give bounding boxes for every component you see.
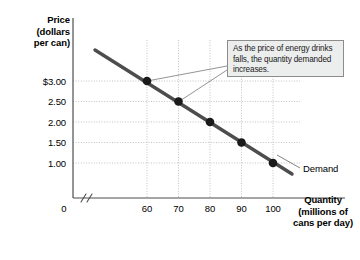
horizontal-gridlines: [73, 81, 300, 163]
x-axis-title-line-3: cans per day): [288, 217, 358, 229]
x-axis-title: Quantity (millions of cans per day): [288, 194, 358, 229]
x-axis-title-line-2: (millions of: [288, 206, 358, 218]
x-tick-label-90: 90: [230, 203, 254, 214]
y-axis-title-line-2: (dollars: [8, 26, 70, 38]
data-point-60-3-00: [143, 77, 152, 86]
origin-tick-label: 0: [56, 203, 72, 214]
y-tick-label-1-50: 1.50: [22, 137, 66, 148]
x-axis-title-line-1: Quantity: [288, 194, 358, 206]
data-point-70-2-50: [174, 97, 183, 106]
x-tick-label-70: 70: [167, 203, 191, 214]
y-axis-title: Price (dollars per can): [8, 14, 70, 49]
y-axis-title-line-1: Price: [8, 14, 70, 26]
x-tick-label-100: 100: [261, 203, 285, 214]
data-point-90-1-50: [237, 138, 246, 147]
x-tick-label-80: 80: [198, 203, 222, 214]
y-tick-label-2-50: 2.50: [22, 96, 66, 107]
leader-line-to-point-70: [179, 70, 227, 102]
y-tick-label-3-00: $3.00: [22, 76, 66, 87]
x-tick-label-60: 60: [135, 203, 159, 214]
callout-leader-lines: [147, 66, 227, 102]
demand-curve-label: Demand: [303, 163, 338, 174]
annotation-callout: As the price of energy drinks falls, the…: [227, 40, 344, 77]
leader-line-to-point-60: [147, 66, 227, 81]
data-point-80-2-00: [206, 118, 215, 127]
y-tick-label-1-00: 1.00: [22, 158, 66, 169]
data-point-100-1-00: [269, 159, 278, 168]
y-tick-label-2-00: 2.00: [22, 117, 66, 128]
demand-curve-figure: Price (dollars per can) Quantity (millio…: [0, 0, 360, 260]
y-axis-title-line-3: per can): [8, 37, 70, 49]
